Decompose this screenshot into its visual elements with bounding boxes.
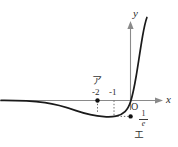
graph-canvas [0,0,178,147]
fraction-denominator: e [139,120,148,128]
origin-label: O [131,102,138,112]
x-tick-label-minus-2: -2 [92,88,100,97]
math-figure: y x O -2 -1 ア 1 e エ [0,0,178,147]
callout-kana-a: ア [92,76,102,86]
point-at-x-minus-2 [95,98,99,102]
x-tick-label-minus-1: -1 [109,88,117,97]
fraction-numerator: 1 [139,110,148,118]
curve-x-exp-x [1,18,147,117]
callout-kana-e: エ [134,130,144,140]
y-axis-label: y [133,8,138,19]
value-one-over-e: 1 e [139,110,148,129]
point-at-minus-one-over-e [128,114,132,118]
x-axis-label: x [166,94,171,105]
